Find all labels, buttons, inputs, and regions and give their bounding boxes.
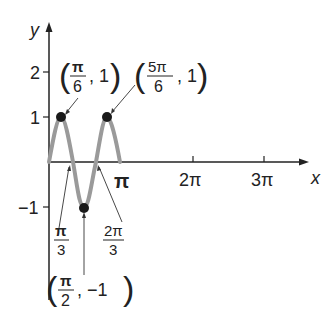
label-point-pi-6: ( π 6 , 1 ) [59, 56, 121, 95]
svg-text:π: π [60, 272, 72, 289]
ytick-2: 2 [30, 63, 40, 83]
svg-text:): ) [110, 56, 121, 94]
svg-text:3: 3 [57, 241, 65, 258]
point-pi-2 [79, 203, 89, 213]
svg-text:3: 3 [109, 241, 117, 258]
svg-text:, 1: , 1 [89, 66, 109, 86]
y-axis-label: y [28, 20, 40, 40]
svg-text:2π: 2π [104, 222, 123, 239]
xtick-2pi: 2π [179, 170, 201, 190]
point-5pi-6 [102, 112, 112, 122]
svg-text:): ) [197, 56, 208, 94]
svg-text:, 1: , 1 [177, 66, 197, 86]
svg-text:6: 6 [154, 78, 163, 95]
svg-text:π: π [55, 222, 67, 239]
svg-text:π: π [72, 58, 84, 75]
svg-text:2: 2 [61, 292, 70, 309]
svg-text:, −1: , −1 [77, 280, 108, 300]
label-point-5pi-6: ( 5π 6 , 1 ) [134, 56, 208, 95]
svg-text:(: ( [134, 56, 146, 94]
label-point-pi-2: ( π 2 , −1 ) [46, 269, 134, 309]
ytick-1: 1 [30, 108, 40, 128]
x-axis-arrow-icon [299, 159, 309, 166]
svg-text:(: ( [59, 56, 71, 94]
label-zero-pi-3: π 3 [54, 222, 69, 258]
point-pi-6 [56, 112, 66, 122]
svg-text:): ) [123, 269, 134, 307]
svg-text:(: ( [46, 269, 58, 307]
sine-graph: y x 2 1 −1 π 2π 3π ( π 6 , 1 ) ( 5π 6 , … [0, 0, 329, 323]
xtick-3pi: 3π [251, 170, 273, 190]
axes [46, 22, 310, 300]
x-axis-label: x [310, 168, 321, 188]
label-zero-2pi-3: 2π 3 [103, 222, 124, 258]
y-axis-arrow-icon [46, 22, 53, 32]
svg-text:6: 6 [73, 78, 82, 95]
xtick-pi: π [114, 170, 129, 192]
svg-text:5π: 5π [148, 58, 167, 75]
ytick-neg1: −1 [18, 198, 39, 218]
